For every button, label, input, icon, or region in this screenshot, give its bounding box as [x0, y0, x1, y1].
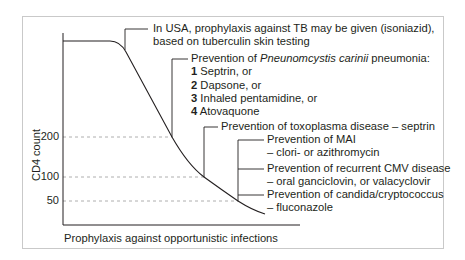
annotation-candida-line2: – fluconazole [267, 201, 444, 214]
pcp-option-2: 2 Dapsone, or [191, 79, 430, 92]
y-tick-50: 50 [33, 194, 59, 206]
x-axis-label: Prophylaxis against opportunistic infect… [64, 232, 278, 244]
annotation-candida: Prevention of candida/cryptococcus – flu… [267, 188, 444, 215]
annotation-cmv-line1: Prevention of recurrent CMV disease [267, 162, 450, 175]
annotation-mai-line2: – clori- or azithromycin [267, 146, 380, 159]
annotation-tb-line2: based on tuberculin skin testing [153, 35, 434, 48]
annotation-cmv: Prevention of recurrent CMV disease – or… [267, 162, 450, 189]
annotation-toxo-line1: Prevention of toxoplasma disease – septr… [221, 120, 435, 133]
annotation-mai-line1: Prevention of MAI [267, 133, 380, 146]
annotation-cmv-line2: – oral ganciclovin, or valacyclovir [267, 175, 450, 188]
annotation-tb-line1: In USA, prophylaxis against TB may be gi… [153, 22, 434, 35]
annotation-pcp-title: Prevention of Pneunomcystis carinii pneu… [191, 52, 430, 65]
pcp-option-3: 3 Inhaled pentamidine, or [191, 92, 430, 105]
annotation-tb: In USA, prophylaxis against TB may be gi… [153, 22, 434, 49]
y-axis-label: CD4 count [30, 129, 42, 181]
gridlines [63, 137, 238, 201]
annotation-pcp: Prevention of Pneunomcystis carinii pneu… [191, 52, 430, 118]
annotation-candida-line1: Prevention of candida/cryptococcus [267, 188, 444, 201]
annotation-toxo: Prevention of toxoplasma disease – septr… [221, 120, 435, 133]
pcp-option-4: 4 Atovaquone [191, 105, 430, 118]
annotation-mai: Prevention of MAI – clori- or azithromyc… [267, 133, 380, 160]
pcp-option-1: 1 Septrin, or [191, 65, 430, 78]
